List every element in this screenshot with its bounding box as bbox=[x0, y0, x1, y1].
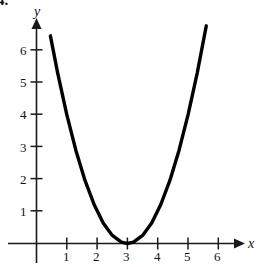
y-tick-label-5: 5 bbox=[20, 76, 27, 89]
y-tick-label-4: 4 bbox=[20, 108, 27, 121]
x-axis-label: x bbox=[248, 237, 254, 251]
y-tick-label-1: 1 bbox=[20, 205, 27, 218]
y-tick-label-6: 6 bbox=[20, 44, 27, 57]
x-tick-label-5: 5 bbox=[184, 250, 191, 263]
parabola-curve bbox=[50, 26, 206, 244]
x-tick-label-6: 6 bbox=[214, 250, 221, 263]
y-tick-label-3: 3 bbox=[20, 141, 27, 154]
plot-canvas bbox=[0, 0, 259, 267]
x-tick-label-4: 4 bbox=[154, 250, 161, 263]
x-tick-label-2: 2 bbox=[93, 250, 100, 263]
y-tick-label-2: 2 bbox=[20, 173, 27, 186]
x-tick-label-3: 3 bbox=[123, 250, 130, 263]
y-axis bbox=[32, 18, 42, 263]
x-tick-label-1: 1 bbox=[63, 250, 70, 263]
y-axis-label: y bbox=[34, 5, 40, 19]
parabola-figure: 4. bbox=[0, 0, 259, 267]
